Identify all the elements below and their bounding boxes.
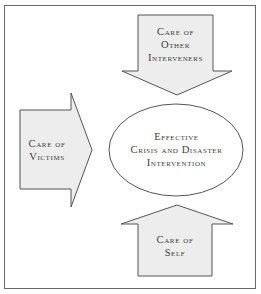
arrow-left-label: Care of Victims	[20, 137, 74, 163]
center-line-1: Effective	[110, 130, 243, 143]
arrow-left-line-2: Victims	[20, 150, 74, 163]
center-line-3: Intervention	[110, 156, 243, 169]
arrow-left-line-1: Care of	[20, 137, 74, 150]
center-label: Effective Crisis and Disaster Interventi…	[110, 130, 243, 169]
arrow-bottom-label: Care of Self	[138, 233, 212, 259]
arrow-top-label: Care of Other Interveners	[138, 25, 213, 64]
arrow-top-line-2: Other	[138, 38, 213, 51]
center-line-2: Crisis and Disaster	[110, 143, 243, 156]
arrow-bottom-line-2: Self	[138, 246, 212, 259]
arrow-top-line-1: Care of	[138, 25, 213, 38]
arrow-top-line-3: Interveners	[138, 51, 213, 64]
arrow-bottom-line-1: Care of	[138, 233, 212, 246]
